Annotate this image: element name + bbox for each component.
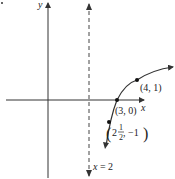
asymptote-eq: = 2	[97, 161, 113, 172]
label-whole: 2	[112, 127, 117, 138]
x-axis-label: x	[140, 102, 146, 113]
point-label-2.5-neg1: ( 2 1 2 , −1 )	[106, 123, 148, 143]
graph-canvas: y x (4, 1) (3, 0) ( 2 1 2 , −1 ) x = 2	[0, 0, 175, 179]
point-3-0	[115, 98, 119, 102]
point-4-1	[135, 78, 139, 82]
corner-dot	[1, 2, 3, 4]
point-label-4-1: (4, 1)	[140, 82, 162, 94]
label-rest: , −1	[123, 127, 139, 138]
asymptote-label: x = 2	[92, 161, 113, 172]
y-axis-label: y	[37, 0, 43, 10]
point-2.5-neg1	[107, 120, 111, 124]
asymptote-arrow-down	[86, 170, 92, 177]
paren-open: (	[106, 125, 111, 143]
asymptote-arrow-up	[86, 3, 92, 10]
point-label-3-0: (3, 0)	[115, 105, 137, 117]
paren-close: )	[143, 125, 148, 143]
curve-arrow-down	[103, 142, 109, 149]
